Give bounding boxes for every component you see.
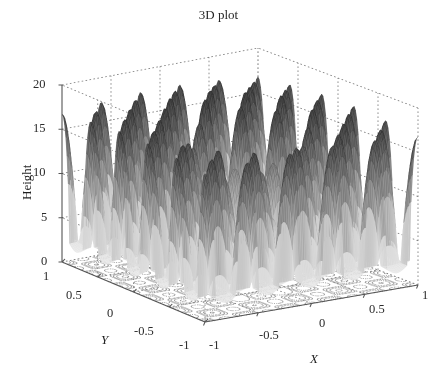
x-tick-label-neg-1: -1 — [209, 339, 219, 352]
z-tick-label-10: 10 — [33, 166, 46, 179]
y-tick-label-neg-1: -1 — [179, 339, 189, 352]
x-tick-label-0: 0 — [319, 317, 325, 330]
page-title: 3D plot — [0, 8, 437, 21]
z-tick-label-15: 15 — [33, 122, 46, 135]
y-tick-label-neg-0-5: -0.5 — [134, 325, 154, 338]
z-tick-label-0: 0 — [41, 255, 47, 268]
z-axis-label: Height — [20, 165, 33, 200]
y-tick-label-0: 0 — [107, 307, 113, 320]
figure-3d-plot: 3D plot Height X Y 20 15 10 5 0 1 0.5 0 … — [0, 0, 437, 381]
x-axis-label: X — [310, 352, 318, 365]
x-tick-label-1: 1 — [422, 289, 428, 302]
y-tick-label-1: 1 — [43, 270, 49, 283]
z-tick-label-20: 20 — [33, 78, 46, 91]
surface-plot-canvas — [0, 0, 437, 381]
x-tick-label-0-5: 0.5 — [369, 303, 385, 316]
y-axis-label: Y — [101, 333, 108, 346]
z-tick-label-5: 5 — [41, 211, 47, 224]
x-tick-label-neg-0-5: -0.5 — [259, 329, 279, 342]
y-tick-label-0-5: 0.5 — [66, 289, 82, 302]
